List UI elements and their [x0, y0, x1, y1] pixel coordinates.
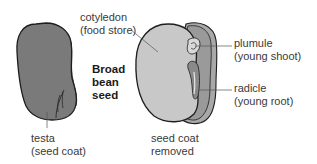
radicle-label: radicle (young root): [234, 82, 293, 108]
cotyledon-label: cotyledon (food store): [80, 11, 136, 37]
plumule-label: plumule (young shoot): [234, 37, 301, 63]
whole-seed-with-testa: [17, 23, 77, 120]
testa-label: testa (seed coat): [31, 132, 86, 158]
opened-seed: [136, 23, 217, 124]
seed-coat-removed-label: seed coat removed: [151, 132, 199, 158]
diagram-title: Broad bean seed: [92, 63, 125, 102]
